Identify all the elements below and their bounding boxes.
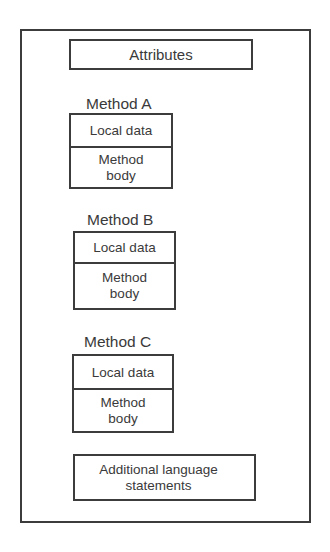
- method-c-local-data-label: Local data: [92, 365, 154, 380]
- method-a-title: Method A: [86, 95, 152, 113]
- attributes-label: Attributes: [129, 46, 192, 63]
- additional-statements-box: Additional language statements: [73, 454, 256, 501]
- method-c-local-data: Local data: [74, 356, 172, 390]
- method-a-box: Local data Method body: [69, 113, 173, 189]
- method-c-box: Local data Method body: [72, 354, 174, 433]
- method-a-local-data: Local data: [71, 115, 171, 148]
- method-c-body: Method body: [74, 390, 172, 431]
- method-b-local-data-label: Local data: [93, 240, 155, 255]
- method-a-local-data-label: Local data: [90, 123, 152, 138]
- method-a-body: Method body: [71, 148, 171, 187]
- method-c-title: Method C: [84, 333, 151, 351]
- attributes-box: Attributes: [69, 39, 253, 70]
- method-b-title: Method B: [87, 211, 153, 229]
- method-b-box: Local data Method body: [73, 231, 176, 310]
- method-b-local-data: Local data: [75, 233, 174, 264]
- method-b-body: Method body: [75, 264, 174, 308]
